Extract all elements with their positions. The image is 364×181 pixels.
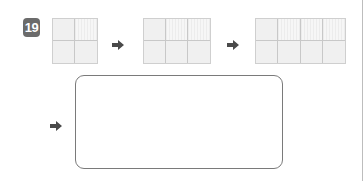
right-arrow-icon — [50, 117, 62, 127]
right-arrow-icon — [227, 36, 239, 46]
grid-cell — [278, 19, 300, 41]
grid-cell — [188, 41, 210, 63]
right-arrow-icon — [112, 36, 124, 46]
grid-cell — [301, 41, 323, 63]
grid-cell — [323, 41, 345, 63]
grid-cell — [188, 19, 210, 41]
grid-cell — [166, 19, 188, 41]
grid-cell — [256, 19, 278, 41]
grid-cell — [256, 41, 278, 63]
pattern-grid-2 — [143, 18, 211, 64]
pattern-grid-1 — [52, 18, 98, 64]
grid-cell — [53, 41, 75, 63]
grid-cell — [166, 41, 188, 63]
grid-cell — [301, 19, 323, 41]
pattern-grid-3 — [255, 18, 346, 64]
page-edge-divider — [362, 0, 363, 181]
grid-cell — [323, 19, 345, 41]
grid-cell — [75, 19, 97, 41]
problem-number-badge: 19 — [23, 18, 40, 37]
grid-cell — [53, 19, 75, 41]
grid-cell — [278, 41, 300, 63]
grid-cell — [75, 41, 97, 63]
grid-cell — [144, 19, 166, 41]
answer-box[interactable] — [75, 75, 283, 169]
grid-cell — [144, 41, 166, 63]
